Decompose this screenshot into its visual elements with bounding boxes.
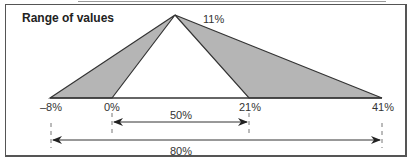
label-minus8: –8% [40,101,62,113]
label-range-80: 80% [170,145,192,157]
diagram-title: Range of values [22,11,114,25]
left-shaded-area [50,15,175,98]
right-shaded-area [175,15,382,98]
label-0: 0% [104,101,120,113]
label-41: 41% [372,101,394,113]
label-21: 21% [239,101,261,113]
label-range-50: 50% [170,109,192,121]
peak-label: 11% [203,13,224,25]
